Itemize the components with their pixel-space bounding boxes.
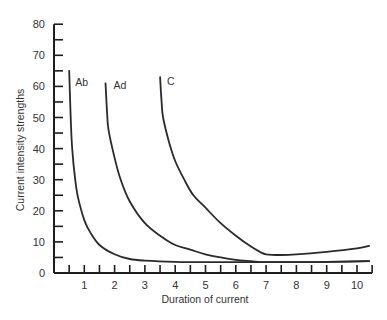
curve-label-ad: Ad bbox=[114, 79, 127, 91]
x-tick-label: 9 bbox=[324, 279, 330, 291]
curves bbox=[69, 71, 369, 262]
y-tick-label: 70 bbox=[33, 49, 45, 61]
curve-label-c: C bbox=[167, 75, 175, 87]
x-tick-label: 6 bbox=[233, 279, 239, 291]
curve-label-ab: Ab bbox=[75, 76, 88, 88]
y-tick-label: 10 bbox=[33, 236, 45, 248]
y-tick-label: 40 bbox=[33, 143, 45, 155]
y-tick-label: 50 bbox=[33, 112, 45, 124]
x-tick-label: 3 bbox=[142, 279, 148, 291]
y-tick-label: 20 bbox=[33, 205, 45, 217]
x-tick-label: 7 bbox=[263, 279, 269, 291]
y-tick-label: 30 bbox=[33, 174, 45, 186]
curve-ad bbox=[106, 83, 370, 262]
x-tick-label: 10 bbox=[351, 279, 363, 291]
x-axis-title: Duration of current bbox=[162, 293, 249, 305]
x-tick-label: 8 bbox=[293, 279, 299, 291]
chart-canvas: 0102030405060708012345678910 AbAdC Durat… bbox=[0, 0, 387, 320]
y-tick-label: 80 bbox=[33, 18, 45, 30]
axes: 0102030405060708012345678910 bbox=[33, 18, 372, 291]
x-tick-label: 1 bbox=[81, 279, 87, 291]
x-tick-label: 2 bbox=[112, 279, 118, 291]
curve-ab bbox=[69, 71, 369, 262]
y-tick-label: 0 bbox=[39, 267, 45, 279]
x-tick-label: 5 bbox=[202, 279, 208, 291]
x-tick-label: 4 bbox=[172, 279, 178, 291]
y-tick-label: 60 bbox=[33, 80, 45, 92]
curve-c bbox=[160, 77, 369, 255]
y-axis-title: Current intensity strengths bbox=[14, 89, 26, 212]
